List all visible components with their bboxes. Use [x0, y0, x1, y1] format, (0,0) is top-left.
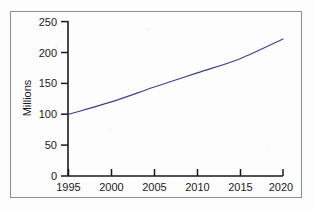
y-tick-label-50: 50 [45, 139, 57, 151]
y-axis-ticks [61, 22, 68, 176]
x-tick-label-2015: 2015 [228, 181, 252, 193]
x-tick-label-2005: 2005 [142, 181, 166, 193]
x-tick-label-2010: 2010 [185, 181, 209, 193]
y-tick-label-150: 150 [39, 77, 57, 89]
y-axis-tick-labels: 250 200 150 100 50 0 [39, 16, 57, 182]
y-axis-title: Millions [21, 79, 33, 116]
x-tick-label-2020: 2020 [269, 181, 293, 193]
x-axis-tick-labels: 1995 2000 2005 2010 2015 2020 [56, 181, 293, 193]
x-tick-label-2000: 2000 [99, 181, 123, 193]
x-axis-ticks [69, 169, 284, 176]
x-tick-label-1995: 1995 [56, 181, 80, 193]
y-tick-label-100: 100 [39, 108, 57, 120]
y-tick-label-250: 250 [39, 16, 57, 28]
y-tick-label-200: 200 [39, 47, 57, 59]
data-series-line [69, 39, 284, 114]
line-chart-plot: 250 200 150 100 50 0 1995 2000 2005 2010… [0, 0, 314, 210]
chart-screenshot: 250 200 150 100 50 0 1995 2000 2005 2010… [0, 0, 314, 210]
